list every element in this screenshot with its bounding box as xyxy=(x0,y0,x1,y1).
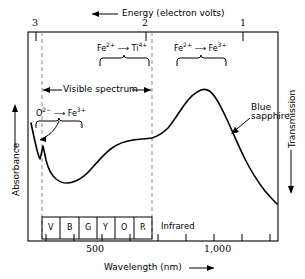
label-fe-to-ti: Fe2+ ⟶ Ti4+ xyxy=(97,42,147,53)
fe-to-fe-from-charge: 2+ xyxy=(183,41,192,48)
absorbance-axis-title: Absorbance xyxy=(12,143,21,196)
visible-spectrum-label: Visible spectrum xyxy=(63,85,138,94)
o-to-fe-to: Fe xyxy=(68,109,77,118)
fe-to-fe-to: Fe xyxy=(209,44,218,53)
color-band-strip xyxy=(42,217,152,239)
fe-to-fe-to-charge: 3+ xyxy=(218,41,227,48)
leader-o-to-fe xyxy=(40,121,59,140)
band-letter-green: G xyxy=(85,224,91,232)
fe-to-fe-from: Fe xyxy=(174,44,183,53)
bracket-o-to-fe xyxy=(36,118,82,128)
o-to-fe-arrow: ⟶ xyxy=(54,109,65,118)
band-letter-red: R xyxy=(140,224,146,232)
blue-sapphire-label: Blue sapphire xyxy=(251,103,290,122)
wavelength-arrow-head xyxy=(207,265,214,271)
label-fe-to-fe: Fe2+ ⟶ Fe3+ xyxy=(174,42,226,53)
fe-to-ti-to-charge: 4+ xyxy=(138,41,147,48)
o-to-fe-from-charge: 2− xyxy=(42,106,51,113)
o-to-fe-to-charge: 3+ xyxy=(77,106,86,113)
wavelength-axis-title: Wavelength (nm) xyxy=(104,263,182,272)
fe-to-fe-arrow: ⟶ xyxy=(195,44,206,53)
energy-tick-2: 2 xyxy=(142,18,148,28)
fe-to-ti-from: Fe xyxy=(97,44,106,53)
absorbance-arrow-head xyxy=(12,104,18,112)
blue-sapphire-line2: sapphire xyxy=(251,112,290,121)
chart-canvas xyxy=(0,0,305,279)
bracket-fe-to-ti xyxy=(100,55,149,66)
energy-arrow-head xyxy=(92,11,99,17)
label-o-to-fe: O2− ⟶ Fe3+ xyxy=(36,107,86,118)
band-letter-yellow: Y xyxy=(103,224,108,232)
figure-absorption-spectrum: Energy (electron volts) 3 2 1 Fe2+ ⟶ Ti4… xyxy=(0,0,305,279)
energy-tick-3: 3 xyxy=(32,18,38,28)
fe-to-ti-from-charge: 2+ xyxy=(106,41,115,48)
visible-arrow-left-head xyxy=(43,87,50,93)
band-letter-violet: V xyxy=(48,224,53,232)
fe-to-ti-arrow: ⟶ xyxy=(118,44,129,53)
infrared-label: Infrared xyxy=(161,222,195,231)
visible-range-guides xyxy=(42,32,152,241)
top-axis-ticks xyxy=(36,32,243,41)
wavelength-tick-1000: 1,000 xyxy=(204,244,231,254)
transmission-axis-title: Transmission xyxy=(288,90,297,148)
bracket-fe-to-fe xyxy=(177,55,226,66)
band-letter-orange: O xyxy=(121,224,127,232)
transmission-arrow-head xyxy=(288,186,294,194)
visible-arrow-right-head xyxy=(144,87,151,93)
bottom-axis-ticks xyxy=(46,234,270,241)
wavelength-tick-500: 500 xyxy=(86,244,104,254)
energy-axis-title: Energy (electron volts) xyxy=(122,9,225,18)
plot-frame xyxy=(28,32,278,241)
energy-tick-1: 1 xyxy=(240,18,246,28)
band-letter-blue: B xyxy=(67,224,73,232)
